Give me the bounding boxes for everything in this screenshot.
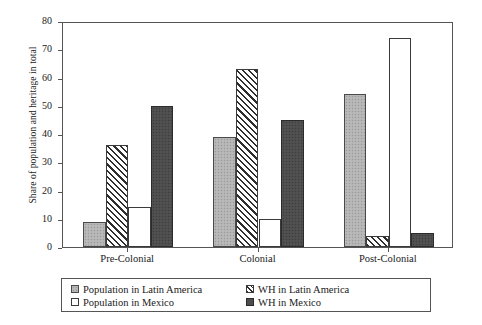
y-tick-label: 60 — [42, 72, 52, 83]
y-tick-label: 10 — [42, 213, 52, 224]
y-tick-label: 70 — [42, 43, 52, 54]
bar-pop-mex-post-colonial — [389, 38, 412, 247]
x-axis-label-2: Post-Colonial — [359, 253, 417, 264]
y-tick-label: 30 — [42, 156, 52, 167]
bar-pop-latam-post-colonial — [344, 94, 367, 247]
bar-pop-latam-colonial — [213, 137, 236, 247]
x-axis-label-0: Pre-Colonial — [100, 253, 154, 264]
legend-entry-wh-latam: WH in Latin America — [246, 283, 349, 295]
legend-column-right: WH in Latin AmericaWH in Mexico — [246, 283, 349, 309]
legend-swatch-pop-latam-icon — [71, 285, 79, 293]
bar-wh-mex-colonial — [281, 120, 304, 247]
x-tick-mark — [258, 248, 259, 252]
y-tick-label: 40 — [42, 128, 52, 139]
bar-pop-latam-pre-colonial — [83, 222, 106, 247]
legend: Population in Latin AmericaPopulation in… — [61, 278, 431, 312]
y-tick-label: 20 — [42, 185, 52, 196]
bar-pop-mex-colonial — [259, 219, 282, 247]
legend-entry-pop-mex: Population in Mexico — [71, 296, 202, 308]
legend-entry-wh-mex: WH in Mexico — [246, 296, 349, 308]
y-tick-label: 50 — [42, 100, 52, 111]
y-axis-title: Share of population and heritage in tota… — [28, 15, 38, 235]
plot-area — [62, 22, 453, 248]
legend-entry-pop-latam: Population in Latin America — [71, 283, 202, 295]
y-tick-label: 80 — [42, 15, 52, 26]
bar-wh-mex-post-colonial — [411, 233, 434, 247]
legend-swatch-pop-mex-icon — [71, 298, 79, 306]
y-tick-label: 0 — [47, 241, 52, 252]
legend-swatch-wh-mex-icon — [246, 298, 254, 306]
legend-label: WH in Latin America — [258, 284, 349, 295]
legend-label: Population in Mexico — [83, 297, 174, 308]
x-tick-mark — [127, 248, 128, 252]
bar-pop-mex-pre-colonial — [128, 207, 151, 247]
bar-wh-latam-pre-colonial — [106, 145, 129, 247]
legend-swatch-wh-latam-icon — [246, 285, 254, 293]
y-tick-mark — [58, 248, 62, 249]
bar-wh-mex-pre-colonial — [151, 106, 174, 247]
legend-label: Population in Latin America — [83, 284, 202, 295]
x-tick-mark — [388, 248, 389, 252]
bar-wh-latam-post-colonial — [366, 236, 389, 247]
bar-chart: Share of population and heritage in tota… — [0, 0, 482, 325]
bar-wh-latam-colonial — [236, 69, 259, 247]
x-axis-label-1: Colonial — [239, 253, 275, 264]
legend-label: WH in Mexico — [258, 297, 321, 308]
legend-column-left: Population in Latin AmericaPopulation in… — [71, 283, 202, 309]
